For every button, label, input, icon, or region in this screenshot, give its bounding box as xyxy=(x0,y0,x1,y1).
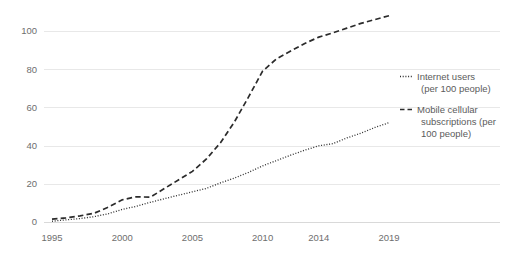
legend-label: Mobile cellular xyxy=(417,104,478,115)
legend-label: subscriptions (per xyxy=(421,116,496,127)
y-axis-tick-label: 0 xyxy=(32,216,37,227)
x-axis-tick-label: 2019 xyxy=(378,232,399,243)
y-axis-tick-label: 100 xyxy=(21,25,37,36)
chart-screenshot: 020406080100 199520002005201020142019 In… xyxy=(0,0,514,265)
legend-label: Internet users xyxy=(417,71,475,82)
y-axis-tick-label: 40 xyxy=(26,140,37,151)
x-axis-tick-label: 2014 xyxy=(308,232,329,243)
x-axis-tick-label: 1995 xyxy=(41,232,62,243)
legend-label: (per 100 people) xyxy=(421,83,491,94)
x-axis-tick-label: 2010 xyxy=(252,232,273,243)
y-axis-tick-label: 60 xyxy=(26,102,37,113)
x-axis-tick-label: 2005 xyxy=(182,232,203,243)
y-axis-tick-label: 20 xyxy=(26,178,37,189)
x-axis-tick-label: 2000 xyxy=(112,232,133,243)
legend-label: 100 people) xyxy=(421,128,471,139)
line-chart: 020406080100 199520002005201020142019 In… xyxy=(0,0,514,265)
y-axis-tick-label: 80 xyxy=(26,64,37,75)
